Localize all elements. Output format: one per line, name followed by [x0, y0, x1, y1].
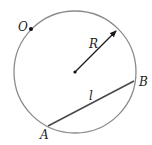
point-o: [29, 27, 33, 31]
label-chord-length: l: [89, 89, 93, 103]
label-b: B: [138, 75, 148, 89]
circle-chord-diagram: O R l A B: [0, 0, 152, 145]
chord-ab: [48, 81, 134, 126]
center-point: [73, 70, 76, 73]
label-radius: R: [88, 37, 98, 51]
label-o: O: [18, 20, 28, 34]
label-a: A: [39, 128, 49, 142]
